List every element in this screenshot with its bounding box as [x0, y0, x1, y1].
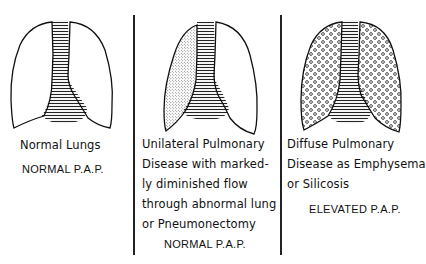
- panel-unilateral-disease: Unilateral Pulmonary Disease with marked…: [134, 0, 280, 264]
- pap-label-normal: NORMAL P.A.P.: [22, 163, 104, 175]
- caption-line: through abnormal lung: [142, 194, 276, 214]
- caption-line: Disease with marked-: [142, 154, 276, 174]
- caption-line: Unilateral Pulmonary: [142, 134, 276, 154]
- caption-diffuse: Diffuse Pulmonary Disease as Emphysema o…: [287, 134, 426, 194]
- caption-line: Disease as Emphysema: [287, 154, 426, 174]
- normal-lungs-diagram: [0, 0, 133, 140]
- caption-unilateral: Unilateral Pulmonary Disease with marked…: [142, 134, 276, 234]
- caption-line: Diffuse Pulmonary: [287, 134, 426, 154]
- panel-normal-lungs: Normal Lungs NORMAL P.A.P.: [0, 0, 133, 264]
- caption-line: Normal Lungs: [20, 135, 101, 155]
- caption-normal: Normal Lungs: [20, 135, 101, 155]
- pap-label-unilateral: NORMAL P.A.P.: [164, 238, 246, 250]
- panel-diffuse-disease: Diffuse Pulmonary Disease as Emphysema o…: [281, 0, 420, 264]
- diffuse-lungs-diagram: [281, 0, 420, 140]
- caption-line: ly diminished flow: [142, 174, 276, 194]
- pap-label-diffuse: ELEVATED P.A.P.: [309, 203, 401, 215]
- caption-line: or Pneumonectomy: [142, 214, 276, 234]
- unilateral-lungs-diagram: [134, 0, 280, 140]
- caption-line: or Silicosis: [287, 174, 426, 194]
- mediastinum-hatch: [42, 20, 87, 124]
